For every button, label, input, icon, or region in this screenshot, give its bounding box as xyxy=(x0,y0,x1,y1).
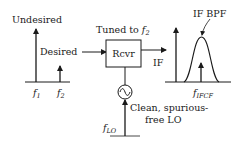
desired-label: Desired xyxy=(40,46,77,57)
f1-label: f1 xyxy=(32,87,41,100)
receiver-block-diagram: Undesired Desired f1 f2 Tuned to f2 Rcvr… xyxy=(0,0,243,142)
if-bpf-label: IF BPF xyxy=(193,8,227,19)
receiver-label: Rcvr xyxy=(112,48,135,59)
receiver-block: Tuned to f2 Rcvr xyxy=(96,24,150,67)
lo-note-line1: Clean, spurious- xyxy=(130,102,208,113)
if-label: IF xyxy=(153,57,164,68)
local-oscillator: fLO Clean, spurious- free LO xyxy=(102,67,208,136)
bpf-pointer-arrow xyxy=(202,19,210,35)
lo-note-line2: free LO xyxy=(145,114,182,125)
if-spectrum: IF BPF fIFCF xyxy=(165,8,231,100)
input-spectrum: Undesired Desired f1 f2 xyxy=(12,14,77,100)
fifcf-label: fIFCF xyxy=(192,87,214,100)
f2-label: f2 xyxy=(56,87,65,100)
tuned-to-label: Tuned to f2 xyxy=(96,24,150,37)
flo-label: fLO xyxy=(102,122,117,135)
undesired-label: Undesired xyxy=(12,14,62,25)
